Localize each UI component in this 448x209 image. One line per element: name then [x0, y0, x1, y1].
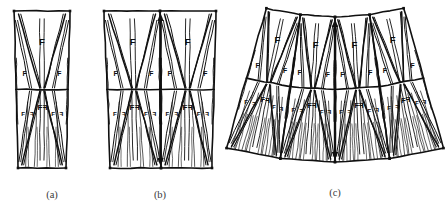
- glyph-f: F: [274, 34, 280, 45]
- unit-top-edge: [335, 15, 370, 17]
- diag-major-right-2: [360, 18, 366, 87]
- unit-mid-line: [380, 78, 424, 87]
- glyph-f: F: [387, 104, 391, 111]
- glyph-f-mirrored: F: [188, 103, 193, 112]
- glyph-f: F: [260, 95, 265, 104]
- glyph-f-mirrored: F: [422, 98, 426, 105]
- glyph-f: F: [368, 107, 372, 114]
- glyph-f: F: [368, 69, 372, 76]
- mdiag-minor-left: [19, 91, 30, 162]
- glyph-f: F: [114, 70, 118, 77]
- hatch-vert: [172, 127, 173, 166]
- glyph-f-mirrored: F: [347, 108, 351, 115]
- corner-marker-dot: [225, 147, 228, 150]
- inner-vert-left: [247, 50, 255, 78]
- glyph-f-mirrored: F: [359, 101, 364, 110]
- glyph-f-mirrored: F: [30, 110, 34, 117]
- mdiag-minor-right: [200, 91, 211, 162]
- minner-vert-center-r: [404, 84, 418, 146]
- minner-vert-center-l: [185, 91, 186, 160]
- glyph-f: F: [51, 110, 55, 117]
- corner-marker-dot: [17, 167, 20, 170]
- unit-bottom-edge: [335, 159, 390, 162]
- hatch-vert: [316, 124, 318, 160]
- wedge-unit-b1: FFFFFFFFF: [103, 10, 163, 170]
- hatch-vert: [140, 127, 141, 166]
- hatch-vert: [201, 127, 202, 166]
- glyph-f: F: [197, 110, 201, 117]
- minner-vert-center-r: [189, 91, 190, 160]
- unit-bottom-edge: [18, 168, 66, 169]
- hatch-vert: [352, 124, 354, 160]
- panel-caption-a: (a): [46, 189, 58, 201]
- hatch-line: [344, 101, 345, 161]
- glyph-f: F: [38, 103, 43, 112]
- minner-vert-center-r: [310, 90, 314, 154]
- corner-marker-dot: [265, 7, 268, 10]
- glyph-f: F: [272, 103, 276, 110]
- glyph-f: F: [57, 70, 61, 77]
- glyph-f: F: [320, 108, 324, 115]
- corner-marker-dot: [160, 167, 163, 170]
- corner-marker-dot: [215, 10, 218, 13]
- glyph-f: F: [339, 108, 343, 115]
- corner-marker-dot: [279, 157, 282, 160]
- corner-marker-dot: [69, 10, 72, 13]
- inner-vert-center-l: [39, 19, 40, 88]
- glyph-f: F: [39, 36, 45, 47]
- unit-bottom-edge: [110, 168, 161, 169]
- wedge-unit-a1: FFFFFFFFF: [13, 10, 72, 170]
- mdiag-minor-left-2: [113, 91, 123, 162]
- inner-vert-left: [16, 58, 17, 89]
- corner-marker-dot: [103, 10, 106, 13]
- hatch-vert: [426, 113, 435, 148]
- glyph-f: F: [183, 103, 188, 112]
- diag-minor-right: [147, 20, 159, 88]
- glyph-f-mirrored: F: [299, 107, 303, 114]
- corner-marker-dot: [159, 10, 162, 13]
- panel-caption-c: (c): [329, 187, 341, 199]
- glyph-f: F: [149, 70, 153, 77]
- mdiag-major-right-2: [405, 84, 437, 147]
- hatch-vert: [312, 124, 314, 160]
- corner-marker-dot: [368, 13, 371, 16]
- glyph-f-mirrored: F: [265, 96, 270, 105]
- glyph-f-mirrored: F: [252, 100, 256, 107]
- glyph-f: F: [166, 110, 170, 117]
- hatch-line: [127, 102, 128, 166]
- diag-major-left-2: [304, 18, 312, 87]
- corner-marker-dot: [211, 167, 214, 170]
- unit-top-edge: [300, 15, 335, 17]
- corner-marker-dot: [334, 161, 337, 164]
- glyph-f: F: [113, 110, 117, 117]
- glyph-f: F: [21, 110, 25, 117]
- glyph-f-mirrored: F: [135, 103, 140, 112]
- unit-bottom-edge: [280, 159, 335, 162]
- glyph-f-mirrored: F: [122, 110, 126, 117]
- unit-mid-line: [290, 87, 335, 90]
- mdiag-minor-right: [323, 91, 334, 156]
- glyph-f: F: [144, 110, 148, 117]
- mdiag-minor-left: [162, 91, 174, 162]
- glyph-f: F: [410, 62, 414, 69]
- glyph-f-mirrored: F: [312, 101, 317, 110]
- glyph-f-mirrored: F: [375, 106, 379, 113]
- glyph-f: F: [23, 70, 27, 77]
- glyph-f-mirrored: F: [327, 108, 331, 115]
- glyph-f-mirrored: F: [152, 110, 156, 117]
- corner-marker-dot: [442, 147, 445, 150]
- glyph-f: F: [185, 36, 191, 47]
- glyph-f: F: [291, 106, 295, 113]
- glyph-f: F: [326, 71, 330, 78]
- inner-vert-center-l: [185, 19, 186, 88]
- wedge-unit-c4: FFFFFFFFF: [368, 7, 444, 160]
- figure-svg: FFFFFFFFFFFFFFFFFFFFFFFFFFFFFFFFFFFFFFFF…: [0, 0, 448, 209]
- inner-vert-center-l: [130, 19, 132, 88]
- panel-a: FFFFFFFFF: [13, 10, 72, 170]
- diag-minor-right: [200, 20, 215, 88]
- hatch-vert: [55, 127, 56, 166]
- glyph-f: F: [244, 98, 248, 105]
- unit-top-edge: [266, 8, 300, 15]
- diag-minor-left: [336, 26, 347, 88]
- glyph-f-mirrored: F: [174, 110, 178, 117]
